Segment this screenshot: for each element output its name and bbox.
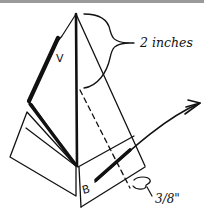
pyramid-center-line bbox=[76, 14, 77, 166]
letter-b-label: B bbox=[81, 182, 92, 197]
right-panel-bottom-edge bbox=[81, 167, 145, 207]
flap-bracket-leader bbox=[147, 187, 152, 196]
left-diagonal-thick-stroke bbox=[30, 104, 75, 164]
pyramid-right-edge bbox=[76, 14, 145, 166]
letter-v-label: V bbox=[56, 52, 64, 65]
left-edge-thick-stroke bbox=[29, 38, 58, 101]
direction-arrow-shaft bbox=[95, 103, 200, 182]
fold-diagram: 2 inches 3/8" V B bbox=[0, 0, 204, 218]
height-measure-label: 2 inches bbox=[139, 35, 193, 50]
flap-measure-label: 3/8" bbox=[155, 192, 180, 206]
height-bracket bbox=[84, 14, 128, 88]
